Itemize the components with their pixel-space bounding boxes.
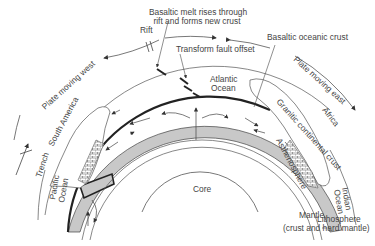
- label-trench: Trench: [33, 151, 51, 179]
- label-transform-fault: Transform fault offset: [176, 44, 255, 54]
- tectonics-diagram: Basaltic melt rises through rift and for…: [0, 0, 375, 246]
- label-core: Core: [193, 184, 211, 194]
- label-basaltic-melt-2: rift and forms new crust: [153, 16, 241, 26]
- label-atlantic-2: Ocean: [211, 83, 236, 93]
- trench-marker: [16, 144, 32, 175]
- label-plate-moving-east: Plate moving east: [292, 54, 349, 106]
- label-basaltic-oceanic-crust: Basaltic oceanic crust: [267, 32, 349, 42]
- label-africa: Africa: [320, 105, 341, 128]
- label-lithosphere-2: (crust and hard mantle): [283, 223, 370, 233]
- rift-marker: [146, 41, 153, 52]
- transform-fault-offsets: [157, 69, 200, 97]
- label-rift: Rift: [140, 25, 153, 35]
- diagram-canvas: Basaltic melt rises through rift and for…: [0, 0, 375, 246]
